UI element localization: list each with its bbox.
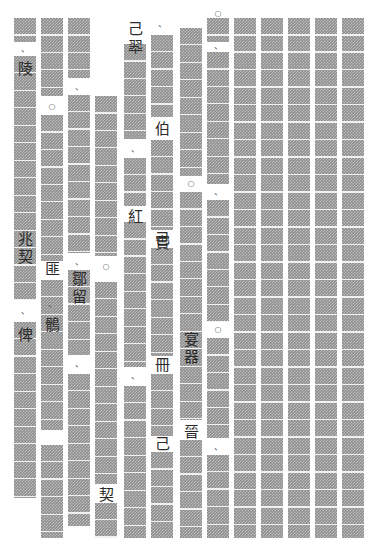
punctuation-mark: 、 — [68, 83, 90, 92]
punctuation-mark: 、 — [124, 372, 146, 381]
visible-character: 伯 — [151, 122, 173, 137]
redaction-block — [151, 374, 173, 436]
redaction-block — [41, 115, 63, 261]
visible-character: 契 — [95, 488, 117, 503]
redaction-block — [315, 18, 337, 538]
visible-character: 紅 — [124, 210, 146, 225]
redaction-block — [14, 322, 36, 498]
redaction-block — [14, 18, 36, 42]
visible-character: 己 — [151, 437, 173, 452]
redaction-block — [124, 222, 146, 367]
visible-character: 冊 — [151, 358, 173, 373]
redaction-block — [180, 28, 202, 176]
column-9 — [234, 0, 256, 546]
visible-character: 俾 — [14, 328, 36, 343]
visible-character: 晉 — [180, 425, 202, 440]
redaction-block — [207, 455, 229, 538]
visible-character: 契 — [14, 250, 36, 265]
circle-mark: ○ — [180, 180, 202, 188]
redaction-block — [95, 503, 117, 538]
column-4: ○契 — [95, 0, 117, 546]
circle-mark: ○ — [95, 263, 117, 271]
circle-mark: ○ — [207, 326, 229, 334]
column-6: 、伯己實冊己 — [151, 0, 173, 546]
column-11 — [288, 0, 310, 546]
redaction-block — [151, 452, 173, 538]
column-7: ○宴器晉 — [180, 0, 202, 546]
redaction-block — [342, 18, 364, 538]
punctuation-mark: 、 — [207, 443, 229, 452]
redaction-block — [207, 18, 229, 42]
column-1: 、陵兆契、俾 — [14, 0, 36, 546]
punctuation-mark: 、 — [124, 145, 146, 154]
redaction-block — [68, 95, 90, 253]
redaction-block — [41, 18, 63, 96]
punctuation-mark: 、 — [68, 258, 90, 267]
column-10 — [261, 0, 283, 546]
punctuation-mark: 、 — [68, 360, 90, 369]
redaction-block — [288, 18, 310, 538]
circle-mark: ○ — [41, 103, 63, 111]
column-3: 、、鄒留、 — [68, 0, 90, 546]
visible-character: 兆 — [14, 232, 36, 247]
punctuation-mark: 、 — [207, 42, 229, 51]
visible-character: 鶻 — [41, 318, 63, 333]
column-12 — [315, 0, 337, 546]
circle-mark: ○ — [207, 10, 229, 18]
visible-character: 翆 — [124, 40, 146, 55]
column-13 — [342, 0, 364, 546]
visible-character: 鄒 — [68, 272, 90, 287]
redaction-block — [261, 18, 283, 538]
redaction-block — [124, 386, 146, 538]
redaction-block — [207, 200, 229, 322]
column-5: 己翆、紅、 — [124, 0, 146, 546]
redaction-block — [207, 338, 229, 438]
redaction-block — [151, 140, 173, 230]
visible-character: 器 — [180, 350, 202, 365]
redaction-block — [151, 35, 173, 117]
punctuation-mark: 、 — [151, 20, 173, 29]
visible-character: 匪 — [41, 262, 63, 277]
punctuation-mark: 、 — [14, 307, 36, 316]
visible-character: 實 — [151, 236, 173, 251]
punctuation-mark: 、 — [207, 188, 229, 197]
redaction-block — [68, 18, 90, 78]
redaction-block — [95, 96, 117, 256]
visible-character: 留 — [68, 290, 90, 305]
document-page: 、陵兆契、俾○匪、鶻、、鄒留、○契己翆、紅、、伯己實冊己○宴器晉○、、○、 — [0, 0, 385, 546]
punctuation-mark: 、 — [41, 300, 63, 309]
redaction-block — [207, 52, 229, 184]
column-8: ○、、○、 — [207, 0, 229, 546]
redaction-block — [124, 44, 146, 139]
redaction-block — [180, 440, 202, 538]
redaction-block — [41, 445, 63, 538]
redaction-block — [180, 192, 202, 420]
redaction-block — [124, 158, 146, 206]
redaction-block — [234, 18, 256, 538]
column-2: ○匪、鶻 — [41, 0, 63, 546]
redaction-block — [95, 282, 117, 484]
punctuation-mark: 、 — [14, 45, 36, 54]
visible-character: 己 — [124, 22, 146, 37]
redaction-block — [151, 248, 173, 356]
visible-character: 宴 — [180, 333, 202, 348]
redaction-block — [68, 374, 90, 526]
visible-character: 陵 — [14, 62, 36, 77]
